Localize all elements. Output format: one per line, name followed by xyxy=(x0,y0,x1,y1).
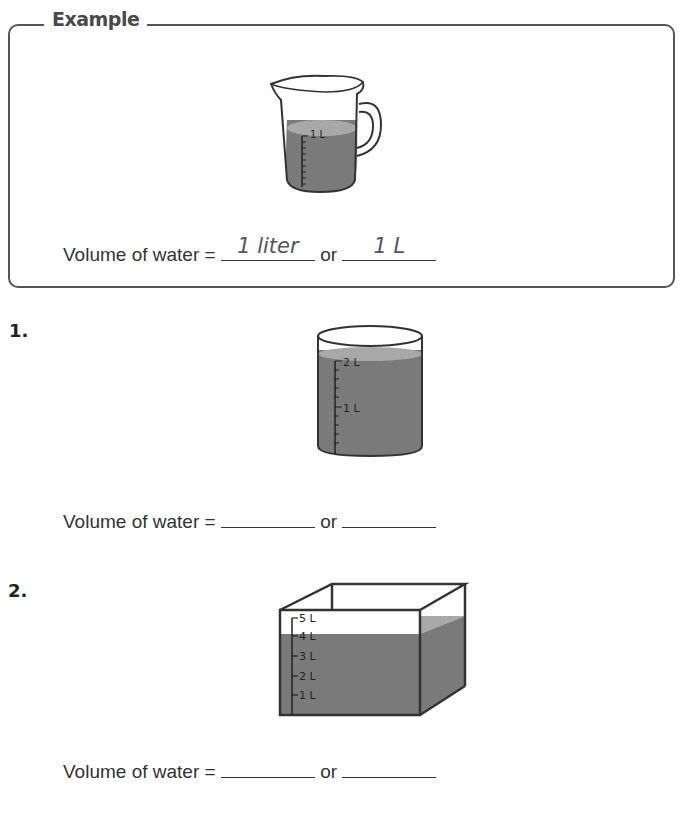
measuring-pitcher-illustration: 1 L xyxy=(255,70,395,200)
svg-text:2 L: 2 L xyxy=(299,670,316,683)
example-answer-blank-2: 1 L xyxy=(342,240,436,261)
problem-1-answer-line: Volume of water = or xyxy=(63,507,436,533)
svg-text:5 L: 5 L xyxy=(299,612,316,625)
cylinder-beaker-illustration: 2 L 1 L xyxy=(312,322,432,462)
problem-2-answer-line: Volume of water = or xyxy=(63,757,436,783)
svg-text:1 L: 1 L xyxy=(299,689,316,702)
problem-1-answer-blank-2[interactable] xyxy=(342,507,436,528)
svg-text:3 L: 3 L xyxy=(299,650,316,663)
problem-2-answer-blank-1[interactable] xyxy=(221,757,315,778)
problem-2-number: 2. xyxy=(8,580,27,601)
svg-text:2 L: 2 L xyxy=(343,356,360,369)
example-answer-line: Volume of water = 1 liter or 1 L xyxy=(63,240,436,266)
box-tank-illustration: 5 L 4 L 3 L 2 L 1 L xyxy=(275,578,475,723)
svg-text:1 L: 1 L xyxy=(310,129,326,140)
problem-1-number: 1. xyxy=(9,320,28,341)
svg-text:1 L: 1 L xyxy=(343,402,360,415)
example-title: Example xyxy=(44,8,147,30)
problem-2-answer-blank-2[interactable] xyxy=(342,757,436,778)
problem-1-answer-blank-1[interactable] xyxy=(221,507,315,528)
svg-text:4 L: 4 L xyxy=(299,630,316,643)
example-answer-blank-1: 1 liter xyxy=(221,240,315,261)
